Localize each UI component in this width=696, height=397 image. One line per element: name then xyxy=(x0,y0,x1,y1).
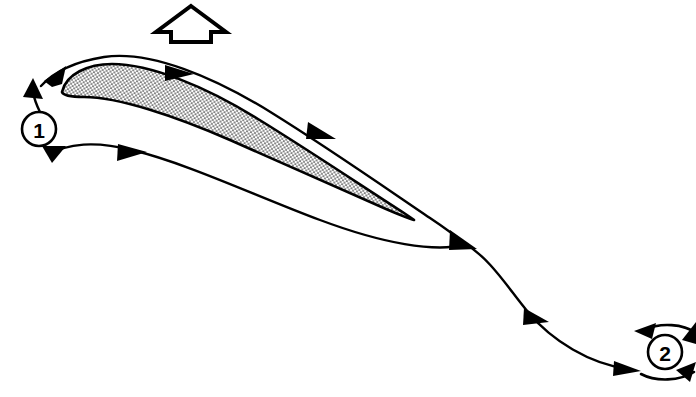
starting-vortex-label: 2 xyxy=(648,335,682,369)
wake-arrow-trailing-edge xyxy=(449,230,477,250)
lower-streamline-arrow-1 xyxy=(117,144,147,161)
inflow-arrowhead xyxy=(23,78,43,99)
lift-direction-arrow xyxy=(156,6,226,42)
wake-arrow-mid xyxy=(523,308,549,325)
lower-streamline-path xyxy=(50,144,464,247)
wake-streamline xyxy=(449,230,641,376)
upper-streamline-arrow-3 xyxy=(306,122,336,139)
lower-streamline-arrow-reverse xyxy=(42,146,66,163)
aerodynamics-diagram: 1 2 xyxy=(0,0,696,397)
airfoil-section xyxy=(62,64,414,220)
airfoil-stipple-fill xyxy=(62,64,414,220)
lower-surface-streamline xyxy=(42,144,464,247)
label-2-text: 2 xyxy=(659,342,671,365)
upper-streamline-arrow-1 xyxy=(44,66,66,87)
wake-arrow-near-vortex xyxy=(613,361,641,376)
diagram-canvas: 1 2 xyxy=(0,0,696,397)
leading-edge-inflow-arrow xyxy=(23,78,43,112)
label-1-text: 1 xyxy=(33,119,45,142)
vortex-arc-upper-arrowhead xyxy=(634,323,656,339)
lift-arrow-shape xyxy=(156,6,226,42)
vortex-arc-edge-arrowhead xyxy=(682,322,696,344)
wake-streamline-path xyxy=(464,243,628,369)
bound-circulation-label: 1 xyxy=(22,112,56,146)
